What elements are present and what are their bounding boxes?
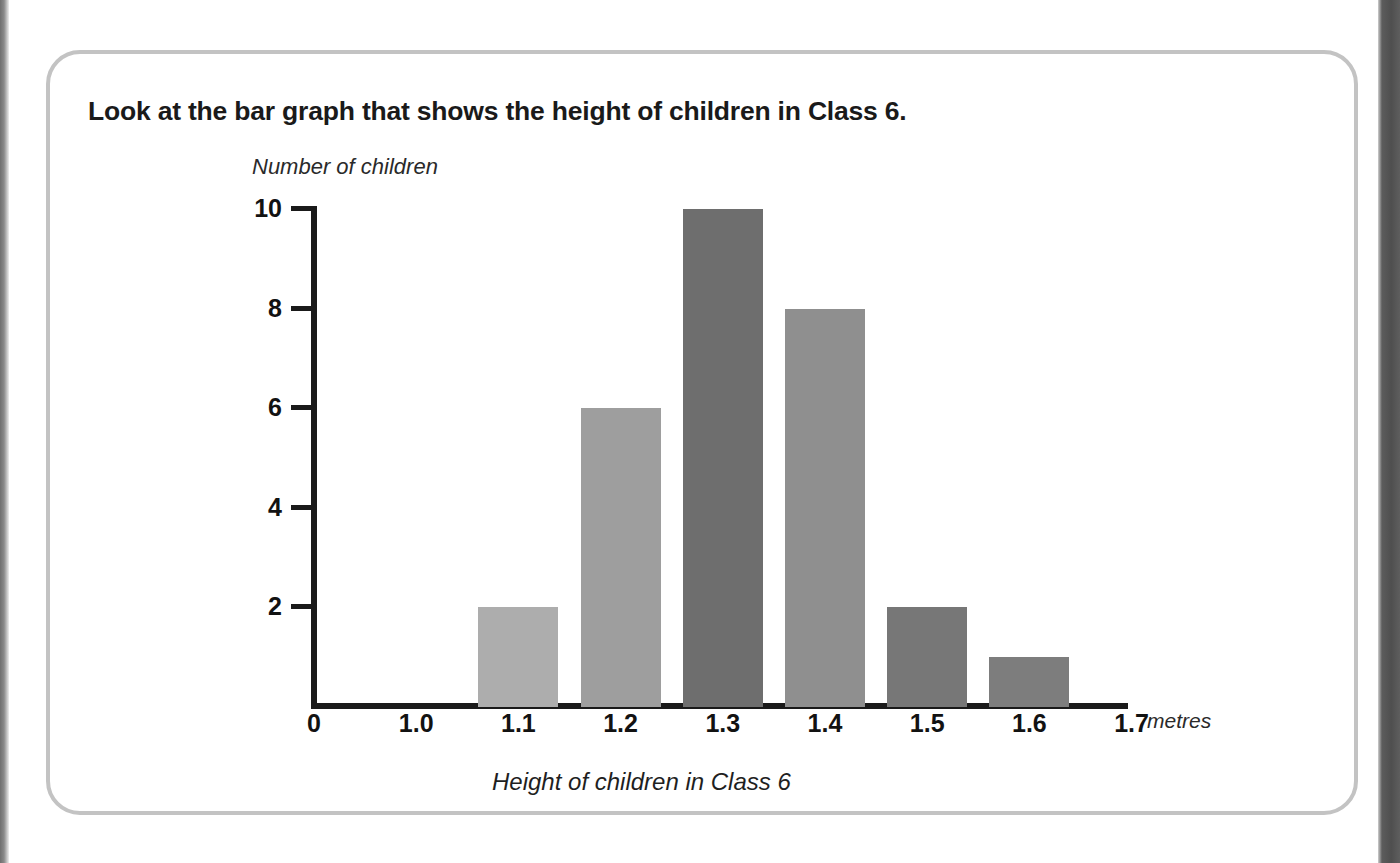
x-axis-tick-label: 1.4 (780, 709, 870, 738)
bar (989, 657, 1069, 707)
bar (887, 607, 967, 707)
x-axis-tick-label: 1.0 (371, 709, 461, 738)
x-axis-tick-label: 1.5 (882, 709, 972, 738)
x-axis-tick-label: 1.2 (576, 709, 666, 738)
bar (478, 607, 558, 707)
bar (785, 309, 865, 707)
x-axis-origin-label: 0 (269, 709, 359, 738)
x-axis-unit-label: metres (1147, 709, 1211, 733)
x-axis-tick-label: 1.3 (678, 709, 768, 738)
x-axis-tick-label: 1.6 (984, 709, 1074, 738)
bar-chart: Number of children 108642 01.01.11.21.31… (0, 0, 1400, 863)
x-axis-title: Height of children in Class 6 (492, 768, 791, 796)
bar (581, 408, 661, 707)
bar (683, 209, 763, 707)
bar-series (0, 0, 1400, 707)
x-axis-tick-label: 1.1 (473, 709, 563, 738)
